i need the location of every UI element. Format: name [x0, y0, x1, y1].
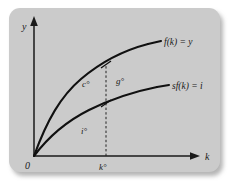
annotation-investment: i° [81, 126, 88, 136]
solow-diagram-figure: y k 0 k° f(k) = y sf(k) = i c° g° i° [0, 0, 232, 186]
curve-investment [34, 87, 157, 156]
y-axis-label: y [21, 21, 27, 32]
leader-line-investment [157, 85, 169, 87]
curve-label-investment: sf(k) = i [172, 81, 203, 92]
curve-label-output: f(k) = y [164, 37, 193, 48]
plot-area: y k 0 k° f(k) = y sf(k) = i c° g° i° [9, 8, 220, 172]
origin-label: 0 [25, 160, 30, 171]
x-axis-arrow-icon [190, 152, 200, 160]
annotation-output-gap: g° [116, 76, 125, 86]
x-tick-label-k-star: k° [99, 162, 107, 172]
leader-line-output [148, 41, 161, 44]
y-axis-arrow-icon [30, 16, 38, 26]
curve-output [34, 44, 148, 156]
annotation-consumption: c° [82, 79, 90, 89]
x-axis-label: k [205, 151, 210, 162]
y-axis [30, 16, 38, 156]
chart-panel: y k 0 k° f(k) = y sf(k) = i c° g° i° [9, 8, 220, 172]
x-axis [34, 152, 200, 160]
